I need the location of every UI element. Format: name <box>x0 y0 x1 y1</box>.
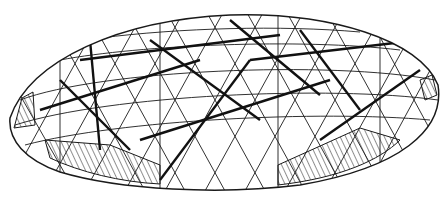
hatched-panel <box>45 140 160 184</box>
geodesic-dome-drawing <box>0 0 441 201</box>
dome-figure <box>0 0 441 201</box>
